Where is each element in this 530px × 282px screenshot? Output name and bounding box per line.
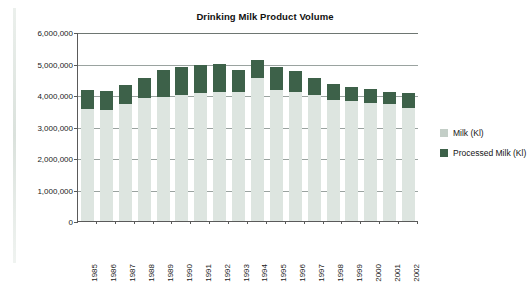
y-axis-tick [74,33,78,34]
bar-segment-processed-milk[interactable] [345,87,358,101]
chart-title: Drinking Milk Product Volume [0,11,530,22]
chart-legend: Milk (Kl)Processed Milk (Kl) [440,128,528,167]
legend-label: Milk (Kl) [453,128,484,139]
x-axis-tick-label: 2002 [412,264,421,282]
bar-column[interactable] [175,32,188,221]
bar-segment-processed-milk[interactable] [327,84,340,100]
bar-column[interactable] [383,32,396,221]
bar-segment-milk[interactable] [175,95,188,221]
bar-segment-processed-milk[interactable] [308,78,321,95]
bar-segment-processed-milk[interactable] [138,78,151,98]
bar-column[interactable] [100,32,113,221]
bar-segment-processed-milk[interactable] [213,64,226,92]
x-axis-tick-label: 1986 [109,264,118,282]
bar-segment-milk[interactable] [119,104,132,221]
bar-segment-milk[interactable] [81,109,94,221]
bar-segment-processed-milk[interactable] [232,70,245,92]
bar-column[interactable] [402,32,415,221]
bar-segment-processed-milk[interactable] [364,89,377,103]
bar-segment-milk[interactable] [402,108,415,221]
bar-segment-processed-milk[interactable] [251,60,264,77]
x-axis-tick-label: 1999 [355,264,364,282]
bar-segment-processed-milk[interactable] [175,67,188,95]
bar-column[interactable] [270,32,283,221]
bar-segment-milk[interactable] [213,92,226,221]
y-axis-tick [74,191,78,192]
bar-column[interactable] [289,32,302,221]
bar-segment-milk[interactable] [383,104,396,221]
bar-segment-milk[interactable] [138,98,151,221]
y-axis-tick [74,159,78,160]
x-axis-tick [341,221,342,224]
bar-segment-processed-milk[interactable] [157,70,170,96]
bar-segment-processed-milk[interactable] [289,71,302,91]
x-axis-tick-label: 1991 [204,264,213,282]
y-axis-tick-label: 2,000,000 [37,155,73,164]
bar-segment-processed-milk[interactable] [402,93,415,107]
x-axis-tick [115,221,116,224]
legend-label: Processed Milk (Kl) [453,148,526,159]
bar-column[interactable] [81,32,94,221]
x-axis-tick [266,221,267,224]
bar-segment-processed-milk[interactable] [194,65,207,93]
x-axis-tick [209,221,210,224]
x-axis-tick [134,221,135,224]
bar-segment-processed-milk[interactable] [81,90,94,110]
legend-item[interactable]: Milk (Kl) [440,128,528,139]
legend-item[interactable]: Processed Milk (Kl) [440,148,528,159]
x-axis-tick [285,221,286,224]
bar-column[interactable] [345,32,358,221]
x-axis-tick [153,221,154,224]
y-axis-tick-label: 0 [69,218,73,227]
y-axis-tick [74,96,78,97]
legend-swatch [440,149,448,157]
bar-column[interactable] [251,32,264,221]
bar-segment-milk[interactable] [232,92,245,221]
bar-column[interactable] [232,32,245,221]
x-axis-tick [360,221,361,224]
bar-segment-milk[interactable] [251,78,264,221]
x-axis-labels: 1985198619871988198919901991199219931994… [77,224,417,267]
y-axis-tick-label: 4,000,000 [37,92,73,101]
bar-column[interactable] [138,32,151,221]
bar-segment-processed-milk[interactable] [119,85,132,105]
y-axis-tick [74,65,78,66]
y-axis-tick-label: 6,000,000 [37,29,73,38]
x-axis-tick-label: 1995 [279,264,288,282]
x-axis-tick-label: 1989 [166,264,175,282]
bar-column[interactable] [194,32,207,221]
plot-area [77,33,417,222]
x-axis-tick-label: 1994 [260,264,269,282]
bar-segment-milk[interactable] [270,90,283,221]
bar-column[interactable] [327,32,340,221]
x-axis-tick [228,221,229,224]
bar-column[interactable] [308,32,321,221]
y-axis-tick [74,222,78,223]
y-axis-tick-label: 5,000,000 [37,60,73,69]
bar-segment-milk[interactable] [194,93,207,221]
x-axis-tick [190,221,191,224]
x-axis-tick [417,221,418,224]
bar-segment-milk[interactable] [100,110,113,221]
bar-column[interactable] [157,32,170,221]
bar-segment-processed-milk[interactable] [100,91,113,110]
x-axis-tick-label: 1990 [185,264,194,282]
bar-column[interactable] [364,32,377,221]
bar-segment-milk[interactable] [345,101,358,221]
bar-segment-milk[interactable] [289,92,302,221]
bar-column[interactable] [119,32,132,221]
x-axis-tick [96,221,97,224]
x-axis-tick-label: 1987 [128,264,137,282]
x-axis-tick-label: 2001 [393,264,402,282]
bar-column[interactable] [213,32,226,221]
bar-segment-milk[interactable] [364,103,377,221]
x-axis-tick [398,221,399,224]
bar-segment-milk[interactable] [308,95,321,221]
bar-segment-processed-milk[interactable] [383,92,396,105]
bar-segment-milk[interactable] [327,100,340,221]
bar-segment-processed-milk[interactable] [270,67,283,91]
bar-segment-milk[interactable] [157,97,170,221]
x-axis-tick-label: 2000 [374,264,383,282]
x-axis-tick-label: 1988 [147,264,156,282]
